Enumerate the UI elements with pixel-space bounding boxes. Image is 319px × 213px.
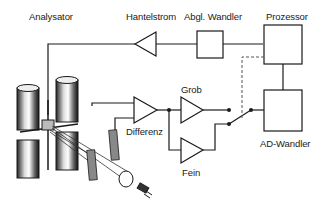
lamp bbox=[137, 183, 152, 198]
abgl-wandler-box bbox=[197, 31, 223, 58]
control-dashed-line bbox=[242, 57, 264, 118]
lens bbox=[119, 171, 133, 187]
ad-wandler-box bbox=[264, 90, 302, 131]
label-analysator: Analysator bbox=[29, 11, 73, 22]
prozessor-box bbox=[264, 25, 302, 64]
switch-lever bbox=[229, 110, 251, 124]
photodetector-right bbox=[109, 130, 120, 161]
hantelstrom-amplifier bbox=[135, 32, 156, 56]
label-prozessor: Prozessor bbox=[266, 11, 308, 22]
grob-amplifier bbox=[181, 97, 203, 123]
label-differenz: Differenz bbox=[126, 126, 163, 137]
photodetector-left bbox=[87, 150, 98, 181]
label-ad-wandler: AD-Wandler bbox=[260, 138, 310, 149]
label-abgl-wandler: Abgl. Wandler bbox=[184, 11, 242, 22]
differenz-amplifier bbox=[134, 97, 157, 123]
label-fein: Fein bbox=[182, 167, 200, 178]
label-grob: Grob bbox=[181, 84, 202, 95]
label-hantelstrom: Hantelstrom bbox=[126, 11, 176, 22]
diagram-canvas bbox=[0, 0, 319, 213]
fein-amplifier bbox=[181, 138, 203, 163]
